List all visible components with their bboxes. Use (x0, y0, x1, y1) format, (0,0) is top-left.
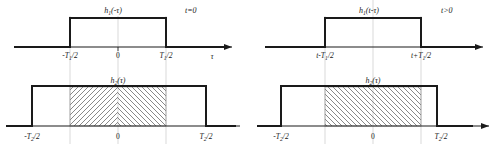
tick-label-bottom-right-3: T2/2 (435, 132, 448, 142)
tick-label-bottom-left-3: T2/2 (200, 132, 213, 142)
overlap-hatch-right-b (373, 87, 421, 126)
tick-label-top-left-3: T1/2 (160, 51, 173, 61)
pulse-h1-left (14, 18, 224, 47)
tick-label-top-right-3: t+T1/2 (411, 51, 431, 61)
pulse-h1-right (265, 18, 475, 47)
time-condition-left: t=0 (185, 6, 197, 15)
overlap-hatch-right-a (325, 87, 373, 126)
tick-label-top-left-2: 0 (116, 51, 120, 60)
signal-label-bottom-right: h2(τ) (366, 76, 381, 86)
panel-left: h1(-τ) t=0 -T1/2 0 T1/2 τ (0, 0, 250, 144)
tick-label-bottom-left-1: -T2/2 (24, 132, 40, 142)
signal-label-bottom-left: h2(τ) (111, 76, 126, 86)
signal-label-top-right: h1(t-τ) (359, 6, 379, 16)
panel-right-plot: h1(t-τ) t>0 t-T1/2 t+T1/2 h2(τ) -T2/2 0 … (251, 0, 501, 144)
overlap-hatch-left-a (70, 87, 118, 126)
panel-left-plot: h1(-τ) t=0 -T1/2 0 T1/2 τ (0, 0, 250, 144)
overlap-hatch-left-b (118, 87, 166, 126)
time-condition-right: t>0 (441, 6, 453, 15)
axis-arrow-bottom-right (481, 123, 489, 129)
axis-label-top-left: τ (211, 52, 214, 61)
tick-label-bottom-right-2: 0 (371, 132, 375, 141)
tick-label-bottom-left-2: 0 (116, 132, 120, 141)
axis-arrow-top-left (224, 44, 232, 50)
tick-label-bottom-right-1: -T2/2 (273, 132, 289, 142)
axis-arrow-top-right (475, 44, 483, 50)
panel-right: h1(t-τ) t>0 t-T1/2 t+T1/2 h2(τ) -T2/2 0 … (251, 0, 501, 144)
convolution-figure: h1(-τ) t=0 -T1/2 0 T1/2 τ (0, 0, 501, 144)
signal-label-top-left: h1(-τ) (104, 6, 122, 16)
